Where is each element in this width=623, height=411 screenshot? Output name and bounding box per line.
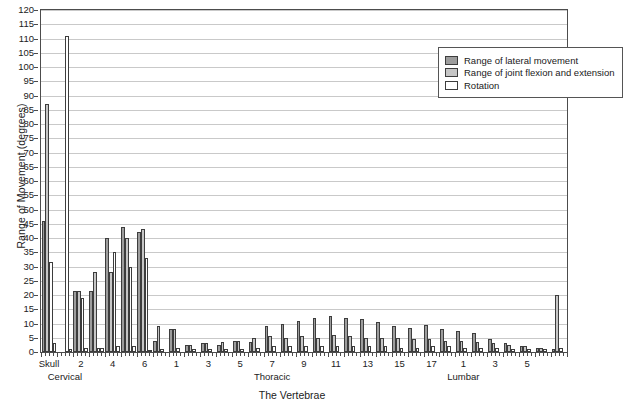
bar-group <box>169 10 185 352</box>
bar-group <box>376 10 392 352</box>
bar-group <box>408 10 424 352</box>
legend: Range of lateral movementRange of joint … <box>438 47 623 98</box>
x-axis-tick-label: Skull <box>39 358 60 369</box>
x-axis-minor-tick <box>133 353 134 356</box>
y-axis-tick-label: 75 <box>23 133 34 143</box>
x-axis-tick-mark <box>344 353 345 357</box>
x-axis-minor-tick <box>260 353 261 356</box>
x-axis-minor-tick <box>252 353 253 356</box>
x-axis-minor-tick <box>491 353 492 356</box>
x-axis-minor-tick <box>527 353 528 356</box>
x-axis-minor-tick <box>49 353 50 356</box>
bar <box>384 346 388 352</box>
bar <box>148 350 152 352</box>
x-axis-tick-label: 6 <box>142 358 147 369</box>
x-axis-minor-tick <box>416 353 417 356</box>
y-axis-tick-label: 50 <box>23 205 34 215</box>
bar <box>431 346 435 352</box>
x-axis-tick-mark <box>41 353 42 357</box>
x-axis-tick-label: 13 <box>362 358 373 369</box>
bar <box>416 348 420 352</box>
y-axis-tick-mark <box>34 224 38 225</box>
legend-label: Rotation <box>464 80 499 91</box>
x-axis-minor-tick <box>192 353 193 356</box>
x-axis-minor-tick <box>400 353 401 356</box>
y-axis-tick-label: 65 <box>23 162 34 172</box>
y-axis-tick-label: 20 <box>23 290 34 300</box>
x-axis-tick-mark <box>232 353 233 357</box>
x-axis-tick-mark <box>360 353 361 357</box>
bar <box>527 349 531 352</box>
y-axis-tick-label: 40 <box>23 233 34 243</box>
x-axis-minor-tick <box>141 353 142 356</box>
bar-group <box>248 10 264 352</box>
x-axis-minor-tick <box>61 353 62 356</box>
bar-group <box>216 10 232 352</box>
bar <box>304 346 308 352</box>
y-axis-tick-mark <box>34 238 38 239</box>
bar <box>157 326 161 352</box>
x-axis-tick-label: 3 <box>493 358 498 369</box>
bar <box>336 346 340 352</box>
x-axis-minor-tick <box>447 353 448 356</box>
x-axis-ticks: SkullCervical2461357Thoracic9111315171Lu… <box>40 353 568 411</box>
x-axis-minor-tick <box>340 353 341 356</box>
y-axis-tick-mark <box>34 352 38 353</box>
x-axis-minor-tick <box>228 353 229 356</box>
bar <box>543 349 547 352</box>
bar <box>145 258 149 352</box>
x-axis-minor-tick <box>388 353 389 356</box>
y-axis-tick-label: 30 <box>23 262 34 272</box>
x-axis-tick-mark <box>153 353 154 357</box>
bar-group <box>280 10 296 352</box>
x-axis-minor-tick <box>256 353 257 356</box>
x-axis-minor-tick <box>145 353 146 356</box>
bar <box>224 349 228 352</box>
x-axis-minor-tick <box>45 353 46 356</box>
plot-area: Range of lateral movementRange of joint … <box>40 9 568 353</box>
x-axis-tick-label: 15 <box>394 358 405 369</box>
x-axis-tick-mark <box>248 353 249 357</box>
y-axis-tick-label: 115 <box>19 19 34 29</box>
bar <box>116 346 120 352</box>
y-axis-tick-mark <box>34 267 38 268</box>
x-axis-minor-tick <box>515 353 516 356</box>
x-axis-minor-tick <box>428 353 429 356</box>
x-axis-tick-mark <box>121 353 122 357</box>
y-axis-tick-mark <box>34 281 38 282</box>
x-axis-minor-tick <box>149 353 150 356</box>
bar-group <box>57 10 73 352</box>
x-axis-minor-tick <box>117 353 118 356</box>
y-axis-tick-mark <box>34 324 38 325</box>
bar-group <box>232 10 248 352</box>
x-axis-minor-tick <box>101 353 102 356</box>
x-axis-minor-tick <box>300 353 301 356</box>
bar <box>495 348 499 352</box>
bar <box>132 346 136 352</box>
bar-group <box>41 10 57 352</box>
x-axis-minor-tick <box>364 353 365 356</box>
bar <box>160 349 164 352</box>
y-axis-tick-label: 105 <box>18 48 34 58</box>
x-axis-minor-tick <box>559 353 560 356</box>
y-axis-tick-mark <box>34 195 38 196</box>
x-axis-tick-mark <box>184 353 185 357</box>
bar-group <box>121 10 137 352</box>
x-axis-minor-tick <box>304 353 305 356</box>
bar <box>192 349 196 352</box>
x-axis-minor-tick <box>85 353 86 356</box>
bar <box>559 348 563 352</box>
y-axis-tick-mark <box>34 167 38 168</box>
x-axis-minor-tick <box>539 353 540 356</box>
bar <box>555 295 559 352</box>
y-axis-tick-label: 70 <box>23 148 34 158</box>
x-axis-minor-tick <box>404 353 405 356</box>
x-axis-tick-mark <box>296 353 297 357</box>
x-axis-tick-mark <box>137 353 138 357</box>
x-axis-tick-label: 1 <box>174 358 179 369</box>
y-axis-tick-mark <box>34 138 38 139</box>
x-axis-tick-mark <box>376 353 377 357</box>
x-axis-minor-tick <box>272 353 273 356</box>
y-axis-tick-mark <box>34 338 38 339</box>
